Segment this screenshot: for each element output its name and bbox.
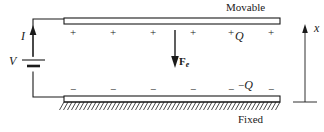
x-axis xyxy=(293,24,317,102)
force-label: Fe xyxy=(179,56,189,69)
bottom-plate xyxy=(64,96,280,102)
bottom-plate-sign: − xyxy=(108,84,118,95)
figure-canvas xyxy=(0,0,324,132)
top-plate-sign: + xyxy=(108,27,118,38)
top-plate-charge-label: Q xyxy=(235,30,244,42)
ground-hatching xyxy=(60,102,281,110)
voltage-source-symbol xyxy=(22,60,45,66)
top-plate-sign: + xyxy=(148,27,158,38)
top-plate-sign: + xyxy=(266,27,276,38)
top-plate-charge-symbol: Q xyxy=(235,29,244,43)
capacitor-figure: Movable Fixed I V x Fe + + + + + + Q − −… xyxy=(0,0,324,132)
bottom-plate-label: Fixed xyxy=(238,114,263,125)
bottom-plate-sign: − xyxy=(266,84,276,95)
bottom-plate-charge-label: −Q xyxy=(238,79,253,91)
top-plate-sign: + xyxy=(68,27,78,38)
bottom-plate-sign: − xyxy=(148,84,158,95)
top-plate xyxy=(64,18,280,24)
force-arrow xyxy=(171,30,179,68)
top-plate-sign: + xyxy=(188,27,198,38)
force-symbol: F xyxy=(179,55,186,67)
circuit-wiring xyxy=(33,19,70,97)
x-axis-label: x xyxy=(314,22,319,34)
wire-bottom xyxy=(33,72,70,97)
bottom-plate-sign: − xyxy=(226,84,236,95)
current-arrow xyxy=(30,25,37,57)
force-subscript: e xyxy=(186,60,190,69)
bottom-plate-sign: − xyxy=(68,84,78,95)
bottom-plate-sign: − xyxy=(188,84,198,95)
voltage-source-label: V xyxy=(9,55,16,67)
current-label: I xyxy=(21,30,25,42)
bottom-plate-charge-symbol: Q xyxy=(244,78,253,92)
top-plate-label: Movable xyxy=(226,2,265,13)
